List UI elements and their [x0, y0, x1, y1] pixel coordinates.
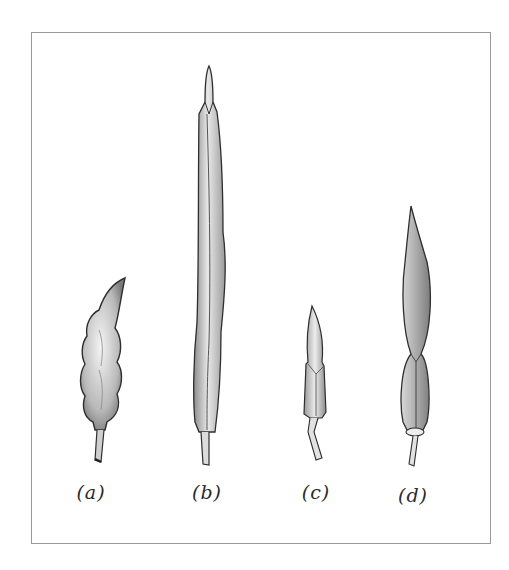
label-b: (b) — [192, 481, 222, 503]
seed-pod-b-illustration — [185, 62, 235, 470]
label-d: (d) — [398, 484, 428, 506]
seed-pod-d-illustration — [395, 202, 445, 472]
label-a: (a) — [76, 481, 105, 503]
seed-pod-c-illustration — [296, 302, 336, 472]
label-c: (c) — [302, 481, 330, 503]
seed-pod-a-illustration — [55, 270, 145, 480]
